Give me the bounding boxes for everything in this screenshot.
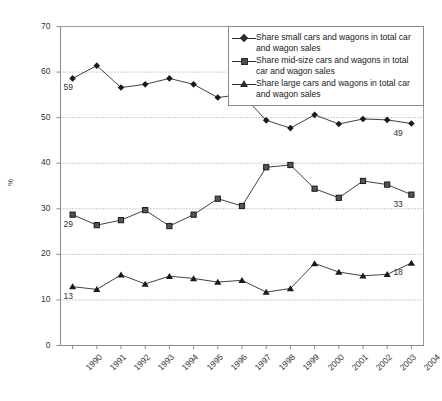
y-tick-label: 50 — [29, 112, 51, 122]
legend-square-icon — [232, 56, 256, 67]
data-point-square — [118, 218, 123, 223]
data-point-triangle — [166, 273, 173, 279]
series-start-label: 13 — [64, 291, 73, 301]
legend-item-label: Share large cars and wagons in total car… — [256, 78, 419, 99]
legend-item[interactable]: Share large cars and wagons in total car… — [232, 78, 419, 99]
series-end-label: 49 — [393, 128, 402, 138]
y-tick-label: 10 — [29, 294, 51, 304]
data-point-triangle — [408, 260, 415, 266]
gridlines — [61, 72, 424, 300]
series-start-label: 29 — [64, 219, 73, 229]
data-point-square — [70, 212, 75, 217]
legend-item[interactable]: Share mid-size cars and wagons in total … — [232, 55, 419, 76]
series-2 — [70, 162, 414, 228]
data-point-square — [409, 192, 414, 197]
data-point-square — [215, 196, 220, 201]
y-tick-label: 60 — [29, 66, 51, 76]
data-point-square — [385, 182, 390, 187]
data-point-square — [143, 208, 148, 213]
data-point-square — [239, 203, 244, 208]
data-point-diamond — [360, 116, 367, 123]
data-point-diamond — [142, 81, 149, 88]
y-tick-label: 20 — [29, 248, 51, 258]
data-point-diamond — [190, 81, 197, 88]
data-point-diamond — [215, 94, 222, 101]
data-point-diamond — [408, 120, 415, 127]
data-point-triangle — [335, 269, 342, 275]
series-line — [73, 165, 412, 226]
data-point-diamond — [166, 75, 173, 82]
series-end-label: 18 — [393, 267, 402, 277]
data-point-square — [336, 195, 341, 200]
data-point-square — [264, 165, 269, 170]
legend-diamond-icon — [232, 33, 256, 44]
data-point-diamond — [287, 125, 294, 132]
legend-item-label: Share small cars and wagons in total car… — [256, 32, 419, 53]
data-point-diamond — [311, 112, 318, 119]
y-tick-label: 40 — [29, 157, 51, 167]
data-point-square — [94, 223, 99, 228]
data-point-square — [312, 186, 317, 191]
data-point-square — [191, 212, 196, 217]
data-point-triangle — [238, 277, 245, 283]
y-axis-label: % — [6, 179, 15, 186]
y-tick-marks — [57, 27, 61, 346]
data-point-triangle — [311, 260, 318, 266]
legend-item[interactable]: Share small cars and wagons in total car… — [232, 32, 419, 53]
series-3 — [69, 260, 415, 295]
series-start-label: 59 — [64, 82, 73, 92]
y-tick-label: 30 — [29, 203, 51, 213]
legend-triangle-icon — [232, 79, 256, 90]
data-point-diamond — [69, 75, 76, 82]
data-point-diamond — [336, 121, 343, 128]
y-tick-label: 70 — [29, 21, 51, 31]
legend-item-label: Share mid-size cars and wagons in total … — [256, 55, 419, 76]
data-point-triangle — [142, 281, 149, 287]
data-point-square — [167, 223, 172, 228]
series-end-label: 33 — [393, 199, 402, 209]
data-point-triangle — [69, 283, 76, 289]
legend: Share small cars and wagons in total car… — [228, 26, 424, 106]
data-point-triangle — [117, 272, 124, 278]
data-point-square — [288, 162, 293, 167]
y-tick-label: 0 — [29, 340, 51, 350]
data-point-square — [360, 178, 365, 183]
